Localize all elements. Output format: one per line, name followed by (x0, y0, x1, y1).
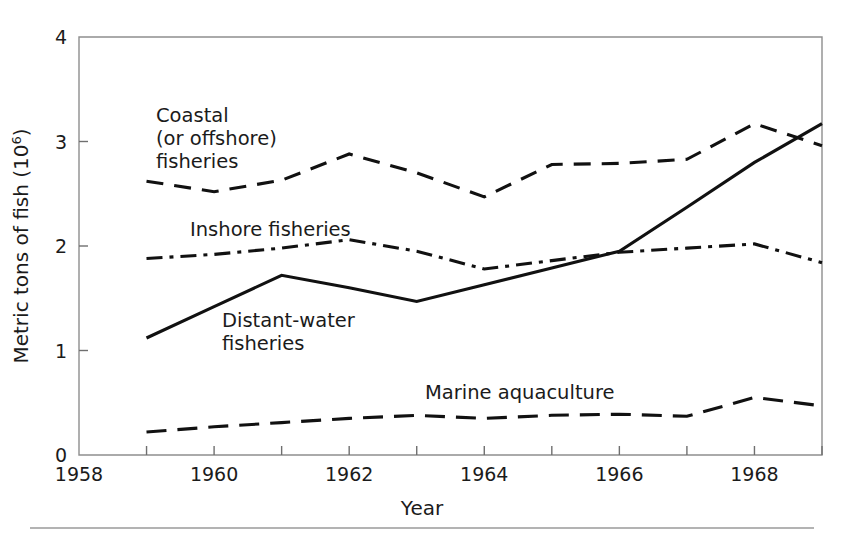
y-axis-tick-labels: 01234 (55, 26, 67, 466)
y-axis-ticks (79, 142, 88, 351)
annotation-line: Inshore fisheries (190, 218, 351, 241)
x-tick-label-1962: 1962 (325, 463, 373, 485)
series-inshore-fisheries (147, 240, 823, 269)
annotation-line: fisheries (156, 150, 238, 173)
x-tick-label-1968: 1968 (730, 463, 778, 485)
x-axis-ticks (147, 446, 822, 455)
annotation-line: (or offshore) (156, 127, 277, 150)
x-axis-title: Year (400, 496, 444, 520)
annotation-distant-water: Distant-waterfisheries (222, 309, 356, 355)
annotation-line: Marine aquaculture (425, 381, 615, 404)
x-tick-label-1964: 1964 (460, 463, 508, 485)
x-tick-label-1958: 1958 (55, 463, 103, 485)
y-tick-label-1: 1 (55, 340, 67, 362)
fisheries-line-chart: 195819601962196419661968 01234 Coastal(o… (0, 0, 844, 534)
annotation-marine-aquaculture: Marine aquaculture (425, 381, 615, 404)
annotation-inshore: Inshore fisheries (190, 218, 351, 241)
y-axis-title: Metric tons of fish (106) (9, 128, 33, 363)
x-tick-label-1966: 1966 (595, 463, 643, 485)
annotation-line: Coastal (156, 104, 229, 127)
annotation-coastal: Coastal(or offshore)fisheries (156, 104, 277, 173)
x-axis-tick-labels: 195819601962196419661968 (55, 463, 779, 485)
annotation-line: Distant-water (222, 309, 356, 332)
y-tick-label-4: 4 (55, 26, 67, 48)
y-tick-label-3: 3 (55, 131, 67, 153)
y-tick-label-0: 0 (55, 444, 67, 466)
y-tick-label-2: 2 (55, 235, 67, 257)
x-tick-label-1960: 1960 (190, 463, 238, 485)
annotation-line: fisheries (222, 332, 304, 355)
figure-container: 195819601962196419661968 01234 Coastal(o… (0, 0, 844, 534)
